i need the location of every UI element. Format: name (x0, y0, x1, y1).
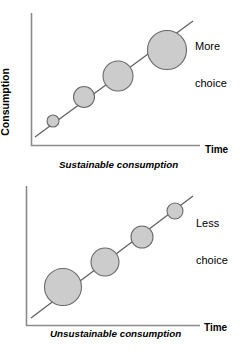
bubble-point-2 (91, 248, 119, 276)
chart-unsustainable-consumption: Unsustainable consumption Time Less choi… (0, 177, 243, 354)
series-label: Unsustainable consumption (50, 329, 181, 340)
bubble-point-2 (74, 87, 95, 108)
x-axis-label: Time (204, 322, 227, 333)
bubble-point-4 (148, 31, 187, 70)
callout-line-1: Less (196, 217, 228, 229)
bubble-point-1 (45, 269, 82, 306)
callout-less-choice: Less choice (196, 192, 228, 291)
chart-sustainable-consumption: Consumption Sustainable consumption Time… (0, 0, 243, 177)
figure-bubble-consumption-charts: { "figure": { "background_color": "#ffff… (0, 0, 243, 354)
bubble-point-3 (103, 61, 133, 91)
bubble-point-4 (167, 203, 183, 219)
bubble-point-3 (131, 226, 153, 248)
x-axis-label: Time (205, 144, 228, 155)
y-axis-label: Consumption (0, 68, 12, 136)
callout-line-1: More (195, 40, 227, 52)
series-label: Sustainable consumption (59, 160, 178, 171)
callout-more-choice: More choice (195, 15, 227, 114)
callout-line-2: choice (196, 254, 228, 266)
callout-line-2: choice (195, 77, 227, 89)
bubble-point-1 (47, 115, 59, 127)
